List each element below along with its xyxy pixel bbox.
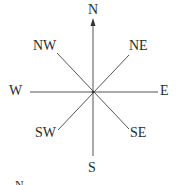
partial-label-cutoff: N [15, 178, 24, 185]
compass-rose: N NE E SE S SW W NW N [0, 0, 180, 185]
north-arrow-icon [91, 18, 96, 26]
center-point [92, 91, 95, 94]
label-south: S [88, 161, 96, 175]
label-west: W [9, 84, 22, 98]
label-southwest: SW [35, 126, 56, 140]
label-northeast: NE [129, 39, 148, 53]
compass-lines [0, 0, 180, 185]
label-east: E [160, 84, 169, 98]
label-north: N [88, 3, 98, 17]
label-northwest: NW [33, 39, 56, 53]
label-southeast: SE [130, 126, 146, 140]
